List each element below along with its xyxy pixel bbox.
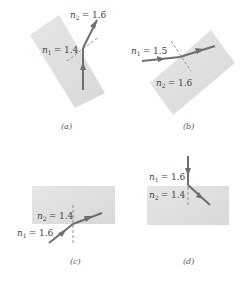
n2-label: n2= 1.4 [149,190,186,201]
refracted-arrow-icon [90,20,97,29]
panel-caption: (c) [70,257,81,266]
incident-arrow-icon [185,168,191,176]
panel-caption: (b) [183,122,194,131]
glass-slab [30,15,105,108]
panel-a: n1= 1.4 n2= 1.6 (a) [30,10,107,131]
panel-caption: (d) [183,257,194,266]
panel-caption: (a) [61,122,72,131]
n2-label: n2= 1.4 [37,211,74,222]
refraction-diagram: n1= 1.4 n2= 1.6 (a) n1= 1.5 n2= 1.6 (b) … [0,0,246,282]
n1-label: n1= 1.4 [42,45,79,56]
n1-label: n1= 1.5 [131,46,168,57]
incident-arrow-icon [157,56,165,62]
n2-label: n2= 1.6 [156,78,193,89]
panel-d: n1= 1.6 n2= 1.4 (d) [147,156,229,266]
n1-label: n1= 1.6 [17,228,54,239]
glass-slab [147,186,229,225]
glass-slab [150,30,235,115]
n2-label: n2= 1.6 [70,10,107,21]
panel-b: n1= 1.5 n2= 1.6 (b) [131,30,235,131]
n1-label: n1= 1.6 [149,172,186,183]
panel-c: n2= 1.4 n1= 1.6 (c) [17,186,115,266]
